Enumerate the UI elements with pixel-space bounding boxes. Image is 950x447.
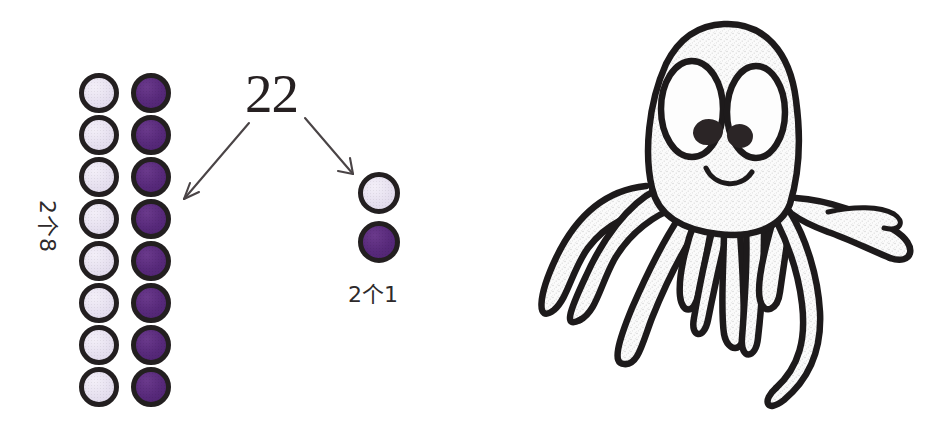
octopus-illustration	[528, 8, 938, 440]
bead-light	[358, 172, 400, 214]
bead-light	[79, 157, 119, 197]
worksheet-page: 2个8 2个1 22	[0, 0, 950, 447]
bead-dark	[131, 73, 171, 113]
bead-dark	[131, 241, 171, 281]
bead-light	[79, 199, 119, 239]
ones-group-label: 2个1	[348, 276, 398, 308]
bead-dark	[131, 283, 171, 323]
arrow-to-tens-icon	[184, 123, 249, 199]
bead-light	[79, 325, 119, 365]
total-number: 22	[245, 62, 298, 125]
bead-light	[79, 241, 119, 281]
bead-dark	[358, 221, 400, 263]
bead-dark	[131, 157, 171, 197]
bead-dark	[131, 367, 171, 407]
bead-light	[79, 367, 119, 407]
bead-dark	[131, 325, 171, 365]
tens-group-label: 2个8	[34, 200, 66, 253]
bead-dark	[131, 199, 171, 239]
bead-light	[79, 115, 119, 155]
arrow-to-ones-icon	[305, 118, 353, 174]
bead-light	[79, 283, 119, 323]
bead-light	[79, 73, 119, 113]
bead-dark	[131, 115, 171, 155]
